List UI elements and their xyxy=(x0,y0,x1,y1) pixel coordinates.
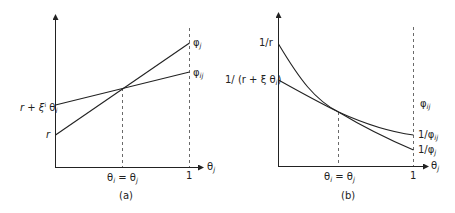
panel-a-caption: (a) xyxy=(119,190,133,202)
panel-a-curves xyxy=(56,43,190,135)
label-sub: j xyxy=(353,176,355,184)
label-text: 1/φ xyxy=(418,129,434,140)
label-eq: = θ xyxy=(115,172,136,183)
panel-b-label-inv-phi-ij: 1/φij xyxy=(418,129,438,144)
panel-a-y-label-r: r xyxy=(46,129,50,141)
panel-b-y-label-inv-r-plus: 1/ (r + ξ θi) xyxy=(225,74,281,89)
label-sub: i xyxy=(55,107,57,115)
label-sub: j xyxy=(136,177,138,185)
panel-b-x-axis-label: θj xyxy=(431,160,439,175)
panel-a-axes xyxy=(55,15,203,168)
panel-a-y-label-r-plus: r + ξi θi xyxy=(20,99,57,117)
panel-b-caption: (b) xyxy=(341,190,355,202)
label-sub: j xyxy=(213,166,215,174)
diagram-canvas xyxy=(0,0,455,213)
label-text: 1/ (r + ξ xyxy=(225,74,266,85)
label-text: 1/φ xyxy=(418,144,434,155)
label-text: r + ξ xyxy=(20,102,44,113)
label-sub: j xyxy=(437,165,439,173)
label-close: ) xyxy=(278,74,282,85)
label-sub: j xyxy=(434,149,436,157)
label-sub: ij xyxy=(200,72,204,80)
label-phi: φ xyxy=(420,98,427,109)
panel-b-label-inv-phi-j: 1/φj xyxy=(418,144,436,159)
panel-b-y-label-inv-r: 1/r xyxy=(259,37,273,49)
panel-a-x-axis-label: θj xyxy=(207,161,215,176)
panel-a-x-tick-theta-eq: θi = θj xyxy=(107,172,138,187)
panel-a-guides xyxy=(123,28,190,167)
panel-b-x-tick-theta-eq: θi = θj xyxy=(324,171,355,186)
label-phi: φ xyxy=(193,37,200,48)
panel-b-curve-inv-phi-ij xyxy=(279,80,414,135)
panel-b-curve-inv-phi-j xyxy=(279,44,414,150)
panel-a-label-phi-ij: φij xyxy=(193,67,204,82)
label-sub: ij xyxy=(427,103,431,111)
panel-a-x-tick-one: 1 xyxy=(186,170,192,182)
label-sup: i xyxy=(44,101,46,108)
label-sub: j xyxy=(200,42,202,50)
label-phi: φ xyxy=(193,67,200,78)
panel-b-curves xyxy=(279,44,414,150)
label-sub: ij xyxy=(434,134,438,142)
panel-a-label-phi-j: φj xyxy=(193,37,202,52)
panel-b-x-tick-one: 1 xyxy=(410,170,416,182)
panel-b-label-phi-ij: φij xyxy=(420,98,431,113)
label-eq: = θ xyxy=(332,171,353,182)
label-text: 1/r xyxy=(259,37,273,48)
panel-b-axes xyxy=(278,13,428,167)
